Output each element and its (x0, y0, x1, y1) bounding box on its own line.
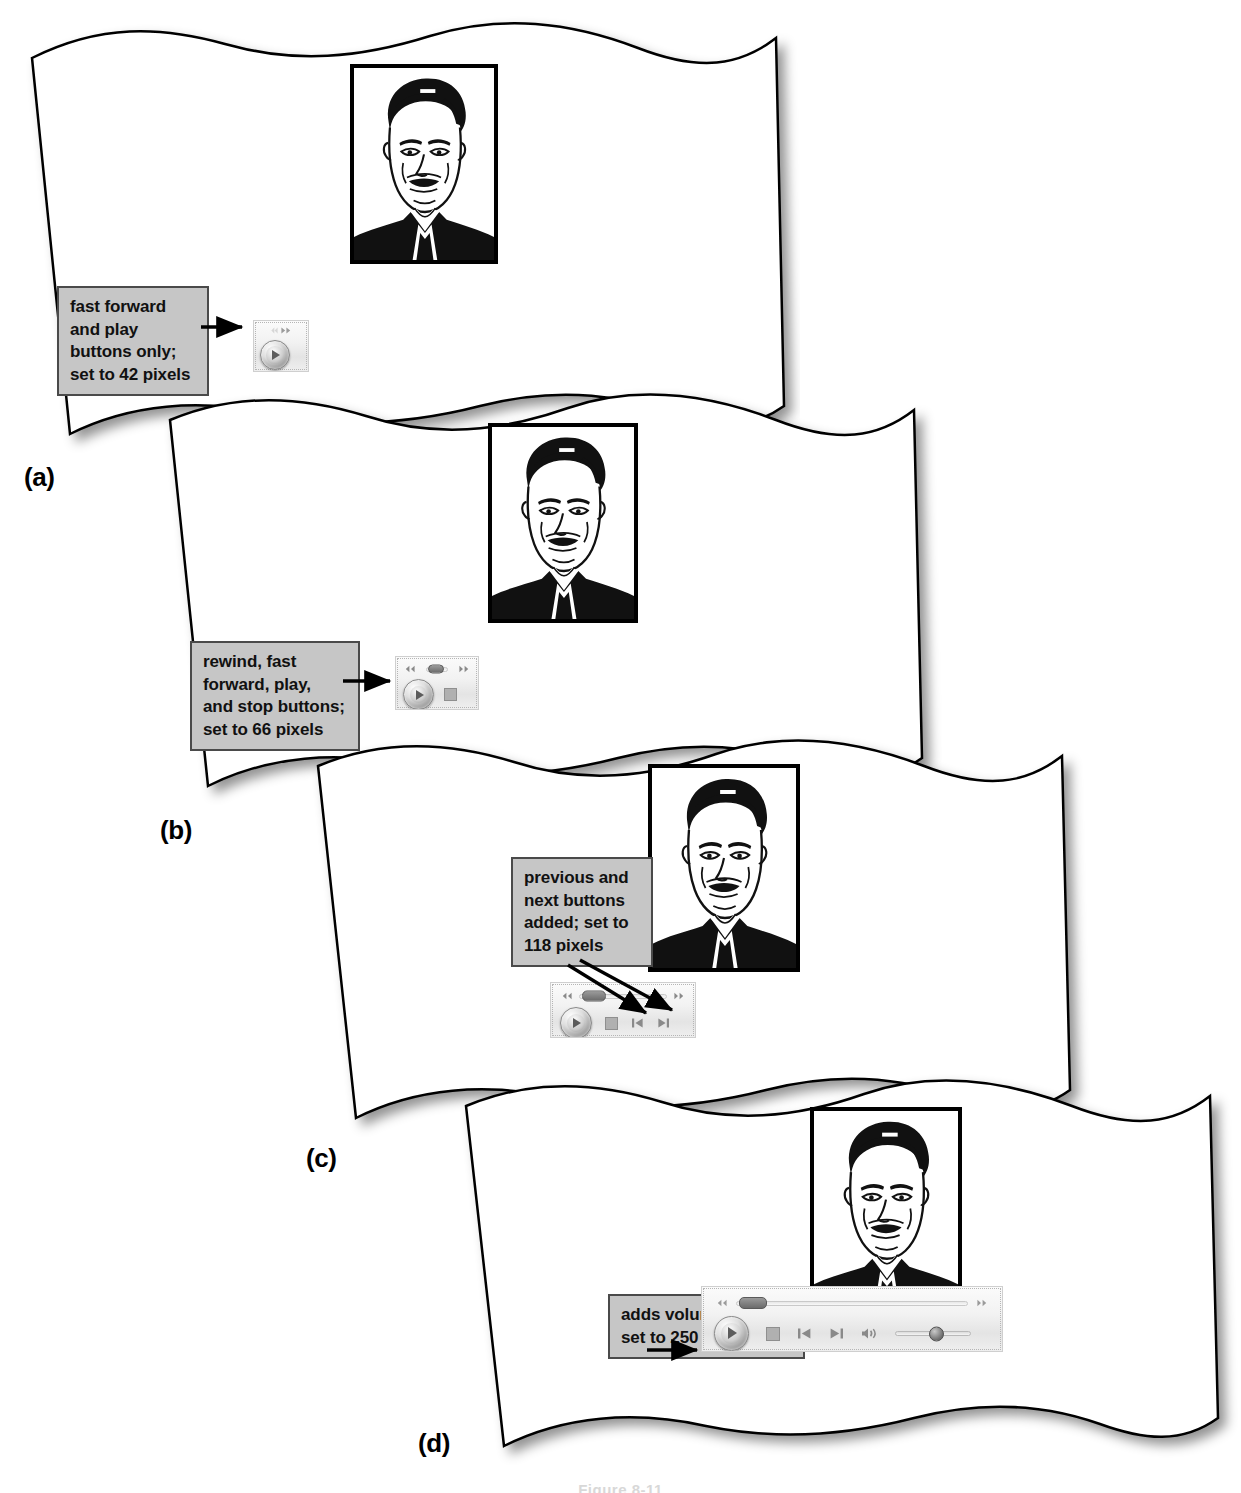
part-label-c: (c) (306, 1143, 337, 1174)
volume-thumb-d[interactable] (929, 1326, 944, 1341)
part-label-a: (a) (24, 462, 55, 493)
portrait-image-d (810, 1107, 962, 1312)
portrait-image-b (488, 423, 638, 623)
play-button-b[interactable] (403, 679, 434, 710)
portrait-lineart (492, 427, 634, 619)
media-player-c[interactable] (550, 982, 696, 1038)
callout-c-line-4: 118 pixels (524, 935, 641, 958)
callout-c-line-1: previous and (524, 867, 641, 890)
part-label-b: (b) (160, 815, 192, 846)
portrait-lineart (652, 768, 796, 968)
callout-a-line-2: and play (70, 319, 197, 342)
callout-a: fast forward and play buttons only; set … (57, 286, 209, 396)
stop-button-b[interactable] (444, 688, 457, 701)
callout-c-line-2: next buttons (524, 890, 641, 913)
portrait-lineart (354, 68, 494, 260)
seek-thumb-d[interactable] (739, 1297, 767, 1309)
figure-bottom-caption: Figure 8-11 (0, 1481, 1241, 1493)
next-button-d[interactable] (829, 1327, 844, 1340)
play-button-c[interactable] (560, 1007, 592, 1038)
rewind-icon-c[interactable] (561, 992, 573, 1000)
stop-button-c[interactable] (605, 1017, 618, 1030)
callout-b-line-1: rewind, fast (203, 651, 348, 674)
fast-forward-icon-b[interactable] (458, 665, 470, 673)
callout-b-line-2: forward, play, (203, 674, 348, 697)
rewind-icon-b[interactable] (404, 665, 416, 673)
portrait-lineart (814, 1111, 958, 1308)
play-button-d[interactable] (714, 1316, 749, 1351)
media-player-b[interactable] (395, 656, 479, 710)
media-player-d[interactable] (701, 1286, 1003, 1352)
previous-button-c[interactable] (631, 1017, 644, 1029)
callout-a-line-3: buttons only; (70, 341, 197, 364)
mute-volume-icon-d[interactable] (861, 1327, 878, 1340)
callout-c-line-3: added; set to (524, 912, 641, 935)
seek-slider-d[interactable] (736, 1301, 968, 1306)
rewind-icon-d[interactable] (716, 1299, 728, 1307)
previous-button-d[interactable] (797, 1327, 812, 1340)
callout-a-line-4: set to 42 pixels (70, 364, 197, 387)
portrait-image-a (350, 64, 498, 264)
callout-b-line-3: and stop buttons; (203, 696, 348, 719)
callout-c: previous and next buttons added; set to … (511, 857, 653, 967)
seek-thumb-c[interactable] (582, 991, 606, 1002)
next-button-c[interactable] (657, 1017, 670, 1029)
figure-stage: fast forward and play buttons only; set … (0, 0, 1241, 1493)
portrait-image-c (648, 764, 800, 972)
media-player-a[interactable] (253, 320, 309, 372)
panel-d-page: adds volume control; set to 250 pixels (448, 1072, 1238, 1480)
rewind-icon-a[interactable] (271, 327, 278, 334)
volume-slider-d[interactable] (895, 1331, 971, 1336)
seek-slider-b[interactable] (426, 667, 448, 672)
part-label-d: (d) (418, 1428, 450, 1459)
play-button-a[interactable] (260, 340, 290, 370)
seek-thumb-b[interactable] (428, 665, 444, 674)
seek-slider-c[interactable] (579, 994, 667, 999)
fast-forward-icon-d[interactable] (976, 1299, 988, 1307)
stop-button-d[interactable] (766, 1327, 780, 1341)
callout-a-line-1: fast forward (70, 296, 197, 319)
fast-forward-icon-c[interactable] (673, 992, 685, 1000)
fast-forward-icon-a[interactable] (281, 327, 292, 334)
